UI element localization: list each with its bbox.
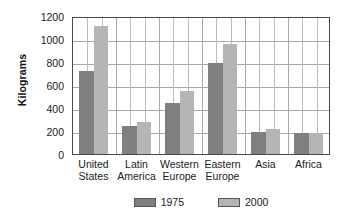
y-axis-tick-800: 800 [46,58,64,69]
bars-layer [73,18,329,154]
y-axis-tick-1000: 1000 [41,35,64,46]
y-axis-tick-600: 600 [46,81,64,92]
legend-item-2000[interactable]: 2000 [218,197,268,208]
x-axis-label-united-states: UnitedStates [72,158,115,182]
y-axis-tick-400: 400 [46,104,64,115]
x-axis-label-asia: Asia [244,158,287,170]
y-axis-tick-0: 0 [58,150,64,161]
bar-united-states-2000 [94,26,109,154]
x-axis-label-eastern-europe: EasternEurope [201,158,244,182]
x-axis-label-line1: Eastern [204,158,240,170]
legend-swatch-2000 [218,198,240,207]
legend-swatch-1975 [134,198,156,207]
bar-latin-america-1975 [122,126,137,154]
plot-area [72,17,330,155]
legend-label-1975: 1975 [161,197,184,208]
legend-label-2000: 2000 [245,197,268,208]
bar-eastern-europe-2000 [223,44,238,154]
x-axis-label-line2: Europe [158,170,201,182]
y-axis-tick-labels: 020040060080010001200 [30,17,68,155]
bar-asia-2000 [266,129,281,154]
x-axis-label-line1: Africa [295,158,322,170]
x-axis-label-line2: America [115,170,158,182]
y-axis-title-label: Kilograms [16,54,28,106]
x-axis-category-labels: UnitedStatesLatinAmericaWesternEuropeEas… [72,158,330,190]
bar-latin-america-2000 [137,122,152,154]
bar-eastern-europe-1975 [208,63,223,154]
y-axis-tick-200: 200 [46,127,64,138]
x-axis-label-line1: Latin [125,158,148,170]
bar-chart-figure: Kilograms 020040060080010001200 UnitedSt… [0,0,345,218]
x-axis-label-line1: Asia [255,158,275,170]
bar-united-states-1975 [79,71,94,154]
x-axis-label-line2: States [72,170,115,182]
x-axis-label-western-europe: WesternEurope [158,158,201,182]
x-axis-label-line2: Europe [201,170,244,182]
bar-western-europe-1975 [165,103,180,154]
x-axis-label-africa: Africa [287,158,330,170]
x-axis-label-latin-america: LatinAmerica [115,158,158,182]
legend-item-1975[interactable]: 1975 [134,197,184,208]
x-axis-label-line1: United [78,158,108,170]
bar-africa-1975 [294,133,309,154]
bar-western-europe-2000 [180,91,195,154]
bar-africa-2000 [309,133,324,154]
bar-asia-1975 [251,132,266,154]
chart-legend: 19752000 [72,192,330,212]
y-axis-tick-1200: 1200 [41,12,64,23]
x-axis-label-line1: Western [160,158,199,170]
